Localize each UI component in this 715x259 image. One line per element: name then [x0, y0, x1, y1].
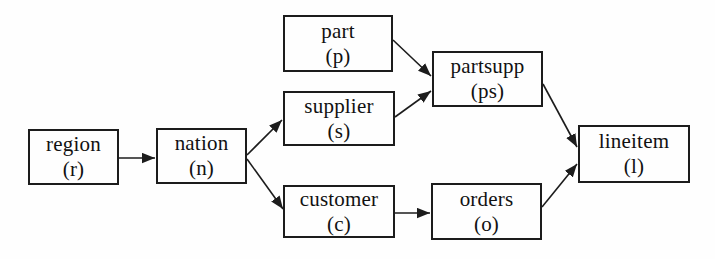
node-partsupp-label: partsupp: [451, 54, 525, 79]
node-nation-abbrev: (n): [189, 156, 214, 181]
node-supplier: supplier (s): [283, 91, 395, 146]
node-lineitem-label: lineitem: [599, 129, 669, 154]
edge-nation-customer: [247, 159, 283, 209]
node-lineitem: lineitem (l): [578, 125, 690, 183]
node-supplier-label: supplier: [304, 94, 373, 119]
edge-orders-lineitem: [542, 164, 577, 207]
node-partsupp-abbrev: (ps): [471, 79, 504, 104]
node-customer: customer (c): [283, 185, 395, 238]
node-part: part (p): [283, 15, 393, 72]
schema-diagram: region (r) nation (n) part (p) supplier …: [0, 0, 715, 259]
node-supplier-abbrev: (s): [328, 119, 351, 144]
node-region-abbrev: (r): [63, 157, 85, 182]
node-lineitem-abbrev: (l): [624, 154, 644, 179]
edge-part-partsupp: [393, 40, 431, 76]
node-region: region (r): [28, 129, 119, 185]
edge-supplier-partsupp: [395, 91, 431, 117]
node-orders-abbrev: (o): [474, 212, 499, 237]
node-part-abbrev: (p): [325, 44, 350, 69]
node-part-label: part: [321, 19, 354, 44]
node-customer-label: customer: [300, 187, 379, 212]
edge-partsupp-lineitem: [543, 84, 577, 147]
node-customer-abbrev: (c): [327, 212, 351, 237]
edge-nation-supplier: [247, 120, 282, 155]
node-partsupp: partsupp (ps): [432, 51, 543, 107]
node-nation: nation (n): [156, 128, 247, 184]
node-region-label: region: [46, 132, 101, 157]
node-orders-label: orders: [460, 187, 514, 212]
node-nation-label: nation: [175, 131, 229, 156]
node-orders: orders (o): [431, 183, 542, 240]
